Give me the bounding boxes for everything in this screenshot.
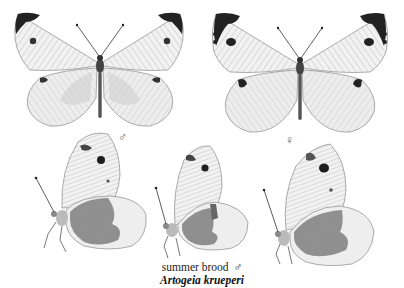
specimen-female-upperside <box>212 13 387 132</box>
specimen-male-upperside <box>15 13 184 126</box>
brood-label: summer brood <box>162 261 229 273</box>
brood-sex-symbol: ♂ <box>234 261 243 273</box>
brood-caption: summer brood♂ <box>0 261 404 273</box>
specimen-male-underside-2 <box>155 146 248 258</box>
species-name: Artogeia krueperi <box>0 274 404 286</box>
specimen-female-underside <box>263 144 374 266</box>
butterfly-plate <box>0 0 404 288</box>
male-symbol: ♂ <box>118 131 127 143</box>
specimen-male-underside-1 <box>35 133 147 252</box>
female-symbol: ♀ <box>285 134 294 146</box>
